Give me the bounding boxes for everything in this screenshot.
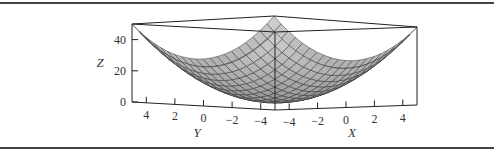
x-axis-label: X	[347, 125, 357, 140]
x-tick-label: −2	[311, 114, 324, 128]
surface-patch	[381, 45, 395, 57]
y-tick-label: 4	[143, 108, 149, 122]
x-tick-label: 4	[400, 111, 406, 125]
y-tick-label: 0	[201, 111, 207, 125]
box-edge-top-back-right	[274, 16, 417, 27]
z-axis-label: Z	[96, 55, 104, 70]
box-edge-top-back-left	[132, 16, 274, 24]
surface-plot: 02040420−2−4−4−2024 Z Y X	[0, 0, 494, 155]
box-edge-top-left	[132, 24, 275, 32]
y-tick-label: −2	[226, 113, 239, 127]
x-tick-label: 2	[371, 112, 377, 126]
y-tick-label: −4	[254, 114, 267, 128]
box-edge-top-right	[275, 27, 417, 32]
z-tick-label: 0	[120, 95, 126, 109]
z-tick-label: 40	[114, 33, 126, 47]
x-tick-label: −4	[283, 115, 296, 129]
surface-patch	[388, 40, 402, 53]
z-tick-label: 20	[114, 64, 126, 78]
y-tick-label: 2	[172, 109, 178, 123]
surface-patch	[153, 43, 167, 56]
surface-patch	[146, 37, 160, 50]
y-axis-label: Y	[193, 125, 202, 140]
